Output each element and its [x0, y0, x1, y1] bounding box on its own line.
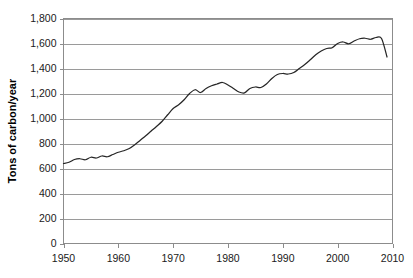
y-tick-label: 1,000: [30, 112, 56, 124]
x-tick-label: 1980: [216, 252, 240, 264]
y-tick-label: 1,200: [30, 87, 56, 99]
y-tick-label: 0: [51, 237, 57, 249]
y-tick-label: 1,600: [30, 37, 56, 49]
y-tick-label: 1,800: [30, 12, 56, 24]
x-tick-label: 2000: [326, 252, 350, 264]
x-axis-tick-labels: 1950196019701980199020002010: [52, 252, 405, 264]
x-tick-label: 1950: [52, 252, 76, 264]
y-tick-label: 800: [39, 137, 57, 149]
y-tick-label: 200: [39, 212, 57, 224]
y-axis-tickmarks: [60, 20, 64, 245]
carbon-emissions-line-chart: 02004006008001,0001,2001,4001,6001,800 1…: [0, 0, 413, 278]
plot-border: [64, 19, 393, 244]
y-axis-title-text: Tons of carbon/year: [6, 78, 18, 183]
gridlines: [64, 20, 393, 220]
y-tick-label: 1,400: [30, 62, 56, 74]
y-tick-label: 400: [39, 187, 57, 199]
plot-frame: [64, 19, 393, 244]
x-tick-label: 1990: [271, 252, 295, 264]
y-axis-title: Tons of carbon/year: [6, 78, 18, 183]
x-tick-label: 1960: [107, 252, 131, 264]
x-tick-label: 1970: [161, 252, 185, 264]
y-axis-tick-labels: 02004006008001,0001,2001,4001,6001,800: [30, 12, 56, 249]
chart-canvas: 02004006008001,0001,2001,4001,6001,800 1…: [0, 0, 413, 278]
y-tick-label: 600: [39, 162, 57, 174]
x-axis-tickmarks: [65, 244, 394, 248]
x-tick-label: 2010: [381, 252, 405, 264]
